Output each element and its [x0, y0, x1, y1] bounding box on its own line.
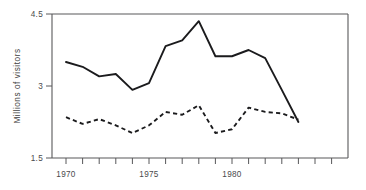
series-line-solid: [66, 21, 298, 122]
x-tick-label-1975: 1975: [139, 170, 159, 179]
y-tick-label-mid: 3: [38, 82, 43, 91]
line-chart: 4.5 3 1.5 Millions of visitors 1970: [0, 0, 366, 190]
x-tick-marks: [66, 158, 332, 164]
series-line-dashed: [66, 105, 298, 133]
y-tick-label-bottom: 1.5: [31, 154, 43, 163]
y-axis-title: Millions of visitors: [13, 48, 22, 123]
x-tick-label-1970: 1970: [56, 170, 76, 179]
chart-screenshot: 4.5 3 1.5 Millions of visitors 1970: [0, 0, 366, 190]
x-tick-label-1980: 1980: [222, 170, 242, 179]
y-tick-label-top: 4.5: [31, 10, 43, 19]
